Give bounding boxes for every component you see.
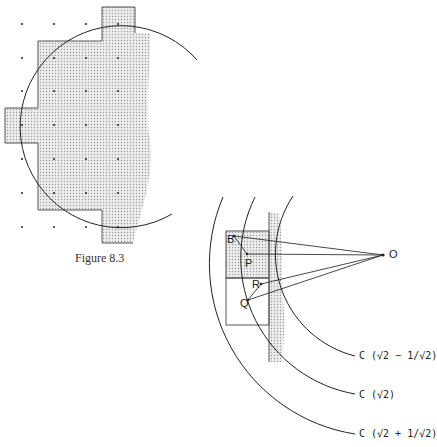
arc-label-outer: C (√2 + 1/√2): [359, 428, 437, 439]
point-label-o: O: [389, 248, 398, 260]
point-label-b: B: [227, 233, 234, 245]
arc-label-middle: C (√2): [359, 389, 395, 400]
point-label-p: P: [245, 257, 252, 269]
arc-inner: [275, 196, 355, 356]
point-label-q: Q: [240, 297, 249, 309]
arc-middle: [241, 197, 355, 394]
figure-left: [5, 7, 197, 243]
figure-caption: Figure 8.3: [75, 251, 124, 266]
arc-label-inner: C (√2 − 1/√2): [359, 350, 437, 361]
point-label-r: R: [252, 278, 260, 290]
square-union-shading: [5, 7, 151, 243]
